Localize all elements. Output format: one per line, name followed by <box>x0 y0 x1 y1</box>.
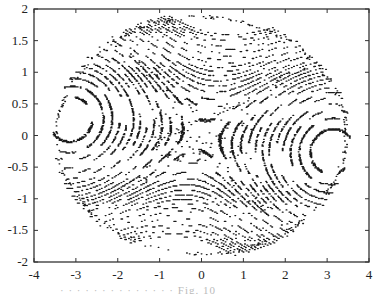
x-tick-label: -2 <box>112 267 123 282</box>
y-tick-label: -2 <box>17 254 28 269</box>
x-tick-label: 0 <box>198 267 205 282</box>
y-tick-label: 1 <box>22 64 29 79</box>
y-tick-label: 2 <box>22 1 29 16</box>
y-axis: 21.510.50-0.5-1-1.5-2 <box>7 1 369 269</box>
x-tick-label: -1 <box>154 267 165 282</box>
y-tick-label: -0.5 <box>7 159 28 174</box>
orbit-dots <box>53 16 350 256</box>
y-tick-label: -1.5 <box>7 222 28 237</box>
y-tick-label: 0.5 <box>12 96 28 111</box>
x-tick-label: -4 <box>29 267 40 282</box>
scatter-points <box>53 16 350 256</box>
x-tick-label: 3 <box>324 267 331 282</box>
figure-caption: · · · · · · · · · · · · · · Fig. 10 <box>60 284 376 294</box>
y-tick-label: 0 <box>22 128 29 143</box>
y-tick-label: -1 <box>17 191 28 206</box>
y-tick-label: 1.5 <box>12 33 28 48</box>
x-tick-label: -3 <box>70 267 81 282</box>
x-tick-label: 2 <box>282 267 289 282</box>
x-tick-label: 1 <box>240 267 247 282</box>
x-tick-label: 4 <box>366 267 373 282</box>
